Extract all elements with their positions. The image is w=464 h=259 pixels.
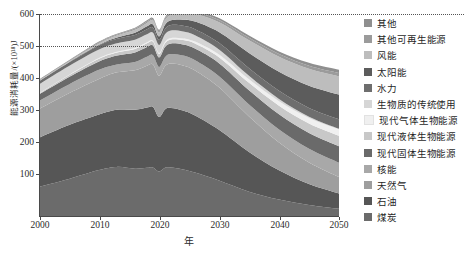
legend-item[interactable]: 现代气体生物能源 [364,112,464,128]
legend-item[interactable]: 石油 [364,193,464,209]
y-tick-label: 100 [0,169,34,179]
legend-item[interactable]: 现代液体生物能源 [364,128,464,144]
y-tick-mark [36,14,39,15]
legend-item-label: 现代固体生物能源 [377,146,456,160]
legend-swatch-icon [364,35,372,43]
legend-item-label: 其他 [377,16,397,30]
legend-item[interactable]: 风能 [364,47,464,63]
legend-item-label: 风能 [377,48,397,62]
legend-item-label: 石油 [377,194,397,208]
y-tick-mark [36,110,39,111]
x-tick-mark [40,217,41,220]
x-tick-label: 2030 [211,220,230,230]
legend-swatch-icon [364,132,372,140]
x-tick-mark [280,217,281,220]
legend-item-label: 现代气体生物能源 [379,113,458,127]
y-tick-label: 200 [0,137,34,147]
legend-swatch-icon [364,165,372,173]
y-tick-mark [36,174,39,175]
legend-swatch-icon [364,197,372,205]
x-tick-mark [100,217,101,220]
legend-swatch-icon [364,51,372,59]
y-tick-mark [36,78,39,79]
legend-item-label: 天然气 [377,178,407,192]
legend-swatch-icon [364,181,372,189]
gridline-500 [40,46,150,47]
x-tick-label: 2010 [91,220,110,230]
legend-item[interactable]: 核能 [364,161,464,177]
legend-swatch-icon [364,84,372,92]
y-axis [39,14,40,217]
y-tick-mark [36,142,39,143]
legend-swatch-icon [364,19,372,27]
legend-item[interactable]: 其他 [364,15,464,31]
y-axis-title: 能源消耗量/(×10¹⁸)J [0,0,11,78]
legend-item[interactable]: 天然气 [364,177,464,193]
y-tick-mark [36,46,39,47]
legend-item-label: 太阳能 [377,65,407,79]
legend-item[interactable]: 煤炭 [364,209,464,225]
legend-item[interactable]: 生物质的传统使用 [364,96,464,112]
legend-item-label: 煤炭 [377,210,397,224]
x-tick-label: 2000 [31,220,50,230]
legend-item[interactable]: 太阳能 [364,64,464,80]
x-tick-label: 2050 [330,220,349,230]
legend-item[interactable]: 其他可再生能源 [364,31,464,47]
x-tick-label: 2040 [271,220,290,230]
x-axis-title: 年 [39,233,339,248]
x-tick-mark [220,217,221,220]
figure: 600 500 400 300 200 100 2000 2010 2020 2… [0,0,464,259]
legend-swatch-icon [364,213,372,221]
legend-item-label: 核能 [377,162,397,176]
legend-swatch-icon [364,68,372,76]
stacked-area-chart [39,14,339,217]
y-axis-title-text: 能源消耗量/(×10¹⁸)J [7,40,19,115]
legend: 其他其他可再生能源风能太阳能水力生物质的传统使用现代气体生物能源现代液体生物能源… [364,15,464,225]
x-axis [39,216,339,217]
legend-item-label: 水力 [377,81,397,95]
legend-item[interactable]: 水力 [364,80,464,96]
x-tick-mark [160,217,161,220]
legend-item-label: 其他可再生能源 [377,32,446,46]
legend-item-label: 现代液体生物能源 [377,129,456,143]
legend-swatch-icon [364,100,372,108]
x-tick-label: 2020 [151,220,170,230]
plot-area [39,14,339,217]
legend-item[interactable]: 现代固体生物能源 [364,145,464,161]
legend-swatch-icon [364,149,372,157]
legend-swatch-icon [364,115,374,125]
x-tick-mark [339,217,340,220]
legend-item-label: 生物质的传统使用 [377,97,456,111]
